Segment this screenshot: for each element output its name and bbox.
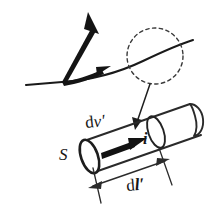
- tangent-direction-arrow: [62, 12, 99, 84]
- conductor-path-group: [26, 40, 193, 85]
- physics-figure: dv′ S i dl′: [0, 0, 222, 215]
- label-cross-section: S: [59, 146, 68, 163]
- tube-near-end-cap: [76, 137, 103, 176]
- label-current: i: [143, 131, 147, 147]
- label-volume-element: dv′: [84, 112, 105, 131]
- conductor-path-curve: [26, 40, 193, 85]
- figure-canvas: [0, 0, 222, 215]
- tube-far-end-cap: [190, 104, 203, 136]
- label-i-symbol: i: [143, 130, 147, 147]
- label-length-element: dl′: [126, 175, 145, 194]
